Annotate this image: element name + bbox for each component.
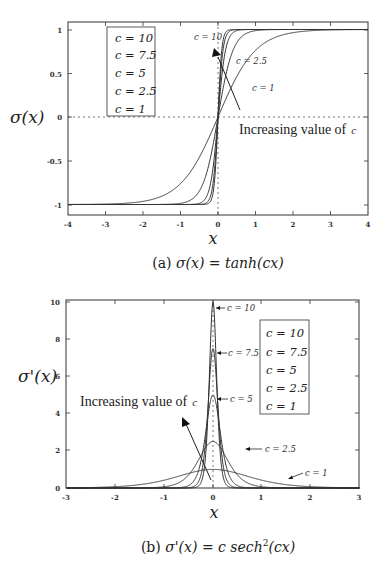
curve-label-c10: c = 10 [227,303,256,313]
legend-entry: c = 2.5 [115,84,157,98]
xtick-b: 3 [357,493,362,502]
legend-entry: c = 1 [115,102,146,116]
pointer-arrow-icon [216,306,220,310]
curve-label-c10: c = 10 [194,32,223,42]
pointer-arrow-icon [288,476,293,480]
legend-entry: c = 5 [115,66,146,80]
figure: 1 0.5 0 -0.5 -1 -4 -3 -2 -1 0 1 2 3 4 c … [0,0,386,585]
legend-entry: c = 2.5 [266,381,308,395]
pointer-arrow-icon [217,351,221,355]
xtick-b: -3 [62,493,70,502]
ytick-b: 10 [50,298,60,307]
panel-a-chart: 1 0.5 0 -0.5 -1 -4 -3 -2 -1 0 1 2 3 4 c … [10,22,371,271]
legend-entry: c = 7.5 [115,48,157,62]
xtick-b: -1 [160,493,168,502]
ytick-b: 2 [55,446,60,455]
curve-label-c75: c = 7.5 [228,348,259,358]
legend-entry: c = 10 [266,326,304,340]
annotation-a: Increasing value ofc [239,122,356,137]
curve-label-c5: c = 5 [230,394,253,404]
panel-b-chart: 10 8 6 4 2 0 -3 -2 -1 0 1 2 3 c = 10 c =… [18,298,362,555]
xtick-b: 2 [308,493,313,502]
ytick-a: 0.5 [50,70,62,79]
pointer-arrow-icon [245,447,250,451]
arrow-head-icon [212,48,221,57]
legend-a: c = 10 c = 7.5 c = 5 c = 2.5 c = 1 [107,27,157,116]
y-axis-label-a: σ(x) [10,107,44,127]
legend-entry: c = 10 [115,31,153,45]
xtick-a: -1 [177,220,185,229]
ytick-a: -1 [54,201,62,210]
x-axis-label-b: x [209,503,218,522]
curve-label-c25: c = 2.5 [236,56,267,66]
xtick-a: 4 [366,220,371,229]
xtick-b: 1 [259,493,264,502]
legend-entry: c = 7.5 [266,345,308,359]
caption-a: (a) σ(x) = tanh(cx) [152,255,283,271]
xtick-a: -2 [139,220,147,229]
y-axis-label-b: σ'(x) [18,366,57,386]
curve-label-c1: c = 1 [305,468,328,478]
ytick-a: 0 [57,113,62,122]
ytick-a: 1 [57,26,62,35]
xtick-a: -3 [102,220,110,229]
ytick-b: 4 [55,409,60,418]
xtick-b: -2 [111,493,119,502]
x-axis-label-a: x [208,229,217,248]
legend-b: c = 10 c = 7.5 c = 5 c = 2.5 c = 1 [260,320,309,414]
curve-label-c1: c = 1 [252,83,275,93]
ytick-a: -0.5 [47,157,62,166]
curve-label-c25: c = 2.5 [265,444,296,454]
y-axis-b [66,302,359,450]
xtick-a: -4 [64,220,72,229]
xtick-a: 2 [291,220,296,229]
xtick-a: 1 [253,220,258,229]
ytick-b: 8 [55,335,60,344]
xtick-a: 3 [328,220,333,229]
xtick-a: 0 [216,220,221,229]
legend-entry: c = 5 [266,363,297,377]
ytick-b: 0 [55,484,60,493]
xtick-b: 0 [211,493,216,502]
arrow-head-icon [182,417,190,427]
caption-b: (b) σ'(x) = c sech2(cx) [141,538,295,555]
legend-entry: c = 1 [266,399,297,413]
annotation-b: Increasing value ofc [80,394,197,409]
